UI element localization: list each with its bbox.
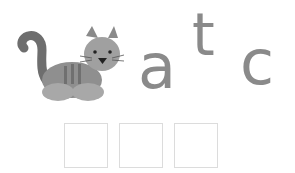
answer-slot-3[interactable] [174, 123, 218, 168]
letter-tile-a[interactable]: a [138, 36, 176, 98]
letter-tile-c[interactable]: c [240, 32, 274, 94]
answer-slot-1[interactable] [64, 123, 108, 168]
cat-icon [16, 22, 124, 102]
letter-tile-t[interactable]: t [192, 6, 215, 64]
answer-slot-2[interactable] [119, 123, 163, 168]
